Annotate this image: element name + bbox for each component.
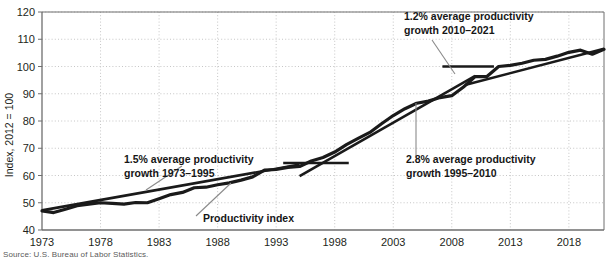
chart-figure: 405060708090100110120 197319781983198819… <box>0 0 614 268</box>
x-tick-label-2013: 2013 <box>498 236 522 248</box>
source-note: Source: U.S. Bureau of Labor Statistics. <box>3 250 148 259</box>
y-tick-label-70: 70 <box>23 142 35 154</box>
y-tick-label-80: 80 <box>23 115 35 127</box>
y-axis-title-text: Index, 2012 = 100 <box>3 93 15 178</box>
x-tick-label-1998: 1998 <box>322 236 346 248</box>
x-tick-label-1993: 1993 <box>264 236 288 248</box>
x-tick-label-1978: 1978 <box>88 236 112 248</box>
y-axis-title: Index, 2012 = 100 <box>3 93 15 178</box>
productivity-index-line-chart: 405060708090100110120 197319781983198819… <box>0 0 614 268</box>
annotation-2010-2021-line1: 1.2% average productivity <box>404 10 534 22</box>
y-tick-label-120: 120 <box>17 6 35 18</box>
chart-background <box>0 0 614 268</box>
y-tick-label-50: 50 <box>23 197 35 209</box>
y-tick-label-90: 90 <box>23 88 35 100</box>
y-tick-label-100: 100 <box>17 61 35 73</box>
x-tick-label-2008: 2008 <box>440 236 464 248</box>
y-tick-label-60: 60 <box>23 170 35 182</box>
annotation-1973-1995-line1: 1.5% average productivity <box>124 153 254 165</box>
x-tick-label-1988: 1988 <box>205 236 229 248</box>
x-tick-label-2018: 2018 <box>557 236 581 248</box>
annotation-2010-2021-line2: growth 2010–2021 <box>404 24 495 36</box>
y-tick-label-40: 40 <box>23 224 35 236</box>
annotation-1995-2010-line2: growth 1995–2010 <box>406 167 497 179</box>
x-tick-label-1973: 1973 <box>30 236 54 248</box>
annotation-1995-2010-line1: 2.8% average productivity <box>406 153 536 165</box>
x-tick-label-2003: 2003 <box>381 236 405 248</box>
annotation-series-label-text: Productivity index <box>203 212 294 224</box>
annotation-1973-1995-line2: growth 1973–1995 <box>124 167 215 179</box>
y-tick-label-110: 110 <box>17 33 35 45</box>
x-tick-label-1983: 1983 <box>147 236 171 248</box>
